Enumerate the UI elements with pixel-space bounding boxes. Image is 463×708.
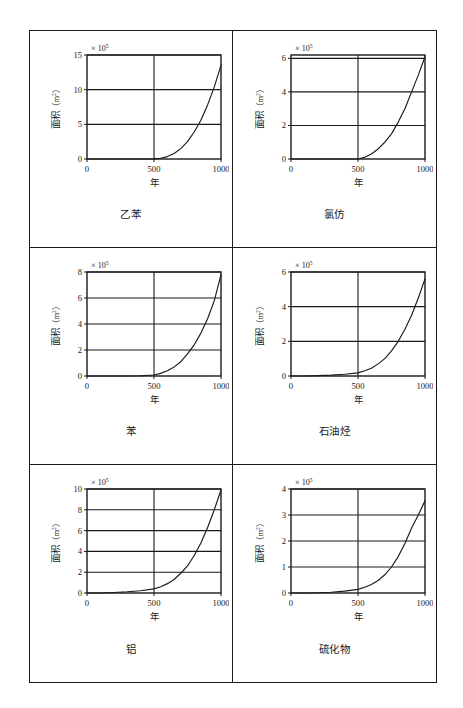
y-axis-exponent: × 105	[91, 477, 109, 487]
y-axis-ticks: 02468	[78, 267, 87, 381]
x-tick-label: 500	[351, 381, 364, 391]
y-axis-exponent: × 105	[91, 260, 109, 270]
x-tick-label: 0	[288, 381, 292, 391]
y-axis-ticks: 051015	[73, 50, 87, 164]
x-axis-label: 年	[353, 394, 362, 405]
y-tick-label: 0	[78, 588, 82, 598]
x-tick-label: 0	[288, 164, 292, 174]
chart-grid: 05101505001000× 105年面积（m2）乙苯024605001000…	[29, 30, 437, 683]
y-axis-ticks: 01234	[281, 484, 290, 598]
chart-plot: 024605001000× 105年面积（m2）	[237, 41, 433, 193]
panel-caption: 苯	[30, 423, 232, 438]
panel-caption: 硫化物	[233, 641, 436, 656]
x-axis-ticks: 05001000	[85, 159, 229, 174]
y-axis-label: 面积（m2）	[254, 519, 265, 562]
y-axis-label: 面积（m2）	[254, 85, 265, 128]
y-tick-label: 8	[78, 267, 82, 277]
x-axis-ticks: 05001000	[288, 593, 432, 608]
x-axis-ticks: 05001000	[288, 159, 432, 174]
y-axis-ticks: 0246	[281, 267, 290, 381]
x-tick-label: 1000	[212, 381, 229, 391]
gridlines	[87, 55, 221, 159]
chart-panel: 024605001000× 105年面积（m2）氯仿	[233, 31, 436, 247]
chart-cell: 024605001000× 105年面积（m2）氯仿	[233, 31, 436, 248]
y-axis-exponent: × 105	[295, 260, 313, 270]
y-axis-label: 面积（m2）	[254, 302, 265, 345]
chart-container: 0246805001000× 105年面积（m2）	[30, 258, 232, 410]
chart-panel: 0246805001000× 105年面积（m2）苯	[30, 248, 232, 464]
x-axis-ticks: 05001000	[85, 593, 229, 608]
gridlines	[291, 55, 425, 159]
y-tick-label: 4	[281, 302, 286, 312]
y-tick-label: 2	[78, 567, 82, 577]
x-tick-label: 0	[85, 598, 89, 608]
gridlines	[87, 489, 221, 593]
x-tick-label: 500	[148, 164, 161, 174]
x-axis-label: 年	[150, 394, 159, 405]
chart-plot: 024605001000× 105年面积（m2）	[237, 258, 433, 410]
x-tick-label: 500	[351, 598, 364, 608]
chart-panel: 024681005001000× 105年面积（m2）铝	[30, 465, 232, 682]
y-tick-label: 2	[281, 336, 285, 346]
x-tick-label: 500	[148, 381, 161, 391]
y-tick-label: 0	[281, 588, 285, 598]
y-axis-ticks: 0246810	[73, 484, 87, 598]
y-tick-label: 5	[78, 119, 82, 129]
panel-caption: 石油烃	[233, 423, 436, 438]
y-tick-label: 6	[281, 53, 286, 63]
x-tick-label: 0	[288, 598, 292, 608]
chart-container: 024605001000× 105年面积（m2）	[233, 41, 436, 193]
x-tick-label: 500	[148, 598, 161, 608]
y-axis-exponent: × 105	[295, 43, 313, 53]
x-axis-ticks: 05001000	[85, 376, 229, 391]
y-axis-label: 面积（m2）	[50, 85, 61, 128]
y-tick-label: 0	[281, 371, 285, 381]
x-axis-label: 年	[150, 177, 159, 188]
x-tick-label: 500	[351, 164, 364, 174]
y-tick-label: 6	[281, 267, 286, 277]
chart-plot: 0246805001000× 105年面积（m2）	[33, 258, 229, 410]
y-tick-label: 4	[78, 319, 83, 329]
chart-container: 024681005001000× 105年面积（m2）	[30, 475, 232, 627]
y-tick-label: 3	[281, 510, 285, 520]
chart-panel: 0123405001000× 105年面积（m2）硫化物	[233, 465, 436, 682]
panel-caption: 铝	[30, 641, 232, 656]
panel-caption: 乙苯	[30, 206, 232, 221]
x-axis-label: 年	[150, 611, 159, 622]
x-axis-label: 年	[353, 611, 362, 622]
chart-container: 0123405001000× 105年面积（m2）	[233, 475, 436, 627]
y-tick-label: 4	[281, 484, 286, 494]
chart-container: 024605001000× 105年面积（m2）	[233, 258, 436, 410]
chart-plot: 0123405001000× 105年面积（m2）	[237, 475, 433, 627]
chart-cell: 05101505001000× 105年面积（m2）乙苯	[30, 31, 233, 248]
y-axis-exponent: × 105	[295, 477, 313, 487]
y-axis-label: 面积（m2）	[50, 519, 61, 562]
chart-plot: 024681005001000× 105年面积（m2）	[33, 475, 229, 627]
chart-cell: 024681005001000× 105年面积（m2）铝	[30, 465, 233, 682]
chart-panel: 05101505001000× 105年面积（m2）乙苯	[30, 31, 232, 247]
chart-cell: 0246805001000× 105年面积（m2）苯	[30, 248, 233, 465]
y-tick-label: 4	[281, 87, 286, 97]
panel-caption: 氯仿	[233, 206, 436, 221]
y-tick-label: 8	[78, 505, 82, 515]
y-tick-label: 0	[78, 154, 82, 164]
y-tick-label: 10	[73, 484, 82, 494]
x-tick-label: 1000	[212, 598, 229, 608]
y-tick-label: 4	[78, 546, 83, 556]
chart-container: 05101505001000× 105年面积（m2）	[30, 41, 232, 193]
y-axis-exponent: × 105	[91, 43, 109, 53]
x-tick-label: 0	[85, 381, 89, 391]
y-axis-label: 面积（m2）	[50, 302, 61, 345]
y-tick-label: 2	[78, 345, 82, 355]
chart-cell: 024605001000× 105年面积（m2）石油烃	[233, 248, 436, 465]
x-tick-label: 1000	[212, 164, 229, 174]
x-tick-label: 0	[85, 164, 89, 174]
y-tick-label: 10	[73, 85, 82, 95]
y-axis-ticks: 0246	[281, 53, 290, 164]
gridlines	[87, 272, 221, 376]
y-tick-label: 15	[73, 50, 82, 60]
gridlines	[291, 489, 425, 593]
chart-plot: 05101505001000× 105年面积（m2）	[33, 41, 229, 193]
x-tick-label: 1000	[416, 164, 433, 174]
y-tick-label: 0	[281, 154, 285, 164]
